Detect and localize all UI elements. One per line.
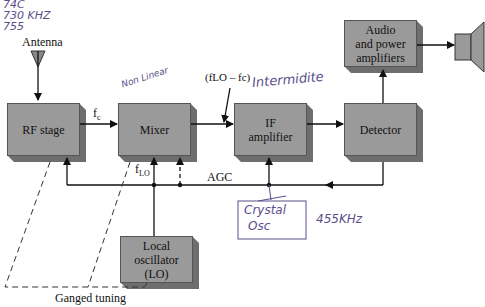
local-oscillator-block: Localoscillator(LO) bbox=[120, 236, 193, 283]
audio-label-3: amplifiers bbox=[356, 51, 405, 65]
antenna-icon bbox=[31, 51, 45, 100]
lo-label-2: oscillator bbox=[134, 253, 179, 267]
detector-block: Detector bbox=[344, 103, 417, 156]
audio-label-1: Audio bbox=[366, 23, 396, 37]
handwritten-osc: Osc bbox=[248, 219, 270, 233]
flo-label: fLO bbox=[135, 162, 150, 178]
audio-amplifier-block: Audioand poweramplifiers bbox=[344, 20, 417, 67]
detector-label: Detector bbox=[360, 123, 401, 137]
audio-label-2: and power bbox=[355, 37, 405, 51]
if-label-1: IF bbox=[265, 116, 276, 130]
lo-label-3: (LO) bbox=[145, 267, 169, 281]
antenna-label: Antenna bbox=[22, 35, 63, 50]
ganged-tuning-label: Ganged tuning bbox=[55, 291, 126, 306]
fc-label: fc bbox=[93, 106, 101, 122]
rf-stage-label: RF stage bbox=[22, 123, 64, 137]
handwritten-note-3: 755 bbox=[3, 20, 24, 33]
mixer-block: Mixer bbox=[118, 103, 191, 156]
if-label-2: amplifier bbox=[249, 130, 293, 144]
handwritten-crystal: Crystal bbox=[244, 203, 286, 217]
if-frequency-label: (fLO – fc) bbox=[205, 71, 250, 83]
mixer-label: Mixer bbox=[140, 123, 169, 137]
if-amplifier-block: IFamplifier bbox=[234, 103, 307, 156]
rf-stage-block: RF stage bbox=[7, 103, 80, 156]
speaker-icon bbox=[455, 22, 484, 72]
lo-label-1: Local bbox=[143, 239, 170, 253]
agc-label: AGC bbox=[207, 170, 232, 185]
handwritten-455khz: 455KHz bbox=[316, 212, 362, 226]
